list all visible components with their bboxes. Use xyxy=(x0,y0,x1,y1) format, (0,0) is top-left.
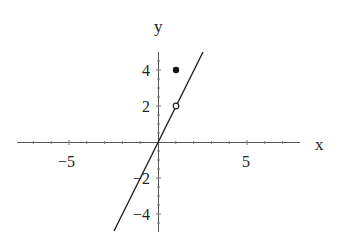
y-axis-label: y xyxy=(154,17,163,36)
filled-point xyxy=(173,67,179,73)
y-tick-label: 4 xyxy=(142,62,150,79)
x-tick-label: 5 xyxy=(242,153,250,170)
x-tick-label: −5 xyxy=(58,153,75,170)
chart-root: y x −5 5 4 2 −2 −4 xyxy=(0,0,338,251)
open-point xyxy=(173,103,179,109)
plot-canvas: y x −5 5 4 2 −2 −4 xyxy=(0,0,338,251)
y-tick-label: −2 xyxy=(133,170,150,187)
x-axis-label: x xyxy=(315,135,324,154)
y-tick-label: −4 xyxy=(133,206,150,223)
y-tick-label: 2 xyxy=(142,98,150,115)
